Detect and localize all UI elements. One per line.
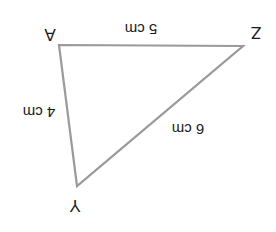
- vertex-label-a: A: [44, 25, 56, 44]
- vertex-label-z: Z: [251, 23, 261, 42]
- vertex-label-y: Y: [69, 196, 80, 215]
- triangle-shape: [59, 45, 243, 186]
- triangle-diagram: A Z Y 5 cm 4 cm 6 cm: [0, 0, 276, 232]
- edge-label-ay: 4 cm: [23, 104, 56, 121]
- edge-label-zy: 6 cm: [172, 121, 205, 138]
- triangle-svg: A Z Y 5 cm 4 cm 6 cm: [0, 0, 276, 232]
- edge-label-az: 5 cm: [125, 21, 158, 38]
